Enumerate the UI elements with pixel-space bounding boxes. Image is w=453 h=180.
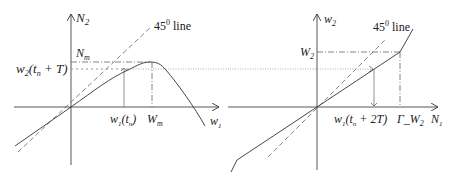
right-y-axis-label: w2 [324, 12, 336, 28]
left-plot: N2 450 line Nm w2(tn + T) w1(tn) Wm w1 [14, 10, 230, 165]
left-45-line-label: 450 line [154, 18, 191, 33]
left-y-axis-label: N2 [75, 10, 90, 27]
left-wm-label: Wm [147, 112, 163, 128]
right-w2-cap-label: W2 [300, 45, 314, 61]
left-w1-label: w1(tn) [110, 112, 136, 128]
left-w2-label: w2(tn + T) [16, 61, 67, 78]
left-nm-label: Nm [75, 46, 90, 62]
right-plot: w2 450 line W2 w1(tn + 2T) Γ_W2 N1 [228, 12, 443, 172]
right-x-axis-label: N1 [430, 112, 443, 128]
left-45-degree-line [18, 26, 152, 152]
right-45-degree-line [268, 39, 386, 157]
diagram-canvas: N2 450 line Nm w2(tn + T) w1(tn) Wm w1 [0, 0, 453, 180]
right-w1-label: w1(tn + 2T) [334, 112, 387, 128]
left-x-axis-label: w1 [210, 114, 222, 130]
right-45-line-label: 450 line [373, 19, 410, 34]
right-characteristic-curve [231, 29, 413, 172]
right-gamma-label: Γ_W2 [396, 112, 424, 128]
